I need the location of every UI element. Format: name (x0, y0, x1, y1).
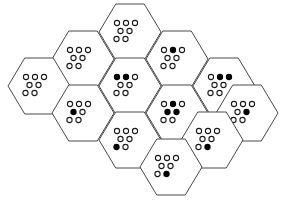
open-dot[interactable] (235, 109, 240, 114)
open-dot[interactable] (76, 117, 81, 122)
open-dot[interactable] (76, 101, 81, 106)
open-dot[interactable] (67, 101, 72, 106)
open-dot[interactable] (173, 155, 178, 160)
open-dot[interactable] (123, 144, 128, 149)
open-dot[interactable] (132, 74, 137, 79)
open-dot[interactable] (170, 63, 175, 68)
open-dot[interactable] (221, 82, 226, 87)
filled-dot[interactable] (114, 144, 119, 149)
open-dot[interactable] (240, 117, 245, 122)
open-dot[interactable] (76, 63, 81, 68)
open-dot[interactable] (170, 117, 175, 122)
open-dot[interactable] (118, 28, 123, 33)
open-dot[interactable] (114, 36, 119, 41)
open-dot[interactable] (71, 55, 76, 60)
filled-dot[interactable] (123, 74, 128, 79)
open-dot[interactable] (127, 28, 132, 33)
open-dot[interactable] (179, 101, 184, 106)
open-dot[interactable] (205, 128, 210, 133)
filled-dot[interactable] (164, 171, 169, 176)
open-dot[interactable] (127, 136, 132, 141)
open-dot[interactable] (80, 55, 85, 60)
open-dot[interactable] (196, 144, 201, 149)
open-dot[interactable] (161, 117, 166, 122)
hexagon-diagram-canvas (0, 0, 289, 200)
open-dot[interactable] (67, 63, 72, 68)
open-dot[interactable] (32, 74, 37, 79)
filled-dot[interactable] (170, 101, 175, 106)
open-dot[interactable] (155, 171, 160, 176)
hexagon-grid (0, 0, 289, 200)
open-dot[interactable] (27, 82, 32, 87)
open-dot[interactable] (76, 47, 81, 52)
open-dot[interactable] (118, 136, 123, 141)
open-dot[interactable] (231, 101, 236, 106)
open-dot[interactable] (67, 117, 72, 122)
open-dot[interactable] (114, 90, 119, 95)
open-dot[interactable] (85, 101, 90, 106)
open-dot[interactable] (208, 74, 213, 79)
open-dot[interactable] (114, 128, 119, 133)
open-dot[interactable] (164, 155, 169, 160)
open-dot[interactable] (123, 90, 128, 95)
open-dot[interactable] (208, 90, 213, 95)
filled-dot[interactable] (226, 74, 231, 79)
open-dot[interactable] (196, 128, 201, 133)
filled-dot[interactable] (165, 109, 170, 114)
open-dot[interactable] (127, 82, 132, 87)
open-dot[interactable] (161, 101, 166, 106)
open-dot[interactable] (23, 74, 28, 79)
open-dot[interactable] (174, 55, 179, 60)
open-dot[interactable] (132, 128, 137, 133)
open-dot[interactable] (155, 155, 160, 160)
open-dot[interactable] (249, 101, 254, 106)
open-dot[interactable] (114, 20, 119, 25)
open-dot[interactable] (41, 74, 46, 79)
open-dot[interactable] (159, 163, 164, 168)
open-dot[interactable] (212, 82, 217, 87)
open-dot[interactable] (32, 90, 37, 95)
filled-dot[interactable] (71, 109, 76, 114)
open-dot[interactable] (240, 101, 245, 106)
open-dot[interactable] (118, 82, 123, 87)
open-dot[interactable] (36, 82, 41, 87)
open-dot[interactable] (80, 109, 85, 114)
open-dot[interactable] (217, 90, 222, 95)
open-dot[interactable] (179, 47, 184, 52)
open-dot[interactable] (165, 55, 170, 60)
open-dot[interactable] (214, 128, 219, 133)
open-dot[interactable] (23, 90, 28, 95)
open-dot[interactable] (123, 36, 128, 41)
filled-dot[interactable] (205, 144, 210, 149)
open-dot[interactable] (85, 47, 90, 52)
open-dot[interactable] (67, 47, 72, 52)
filled-dot[interactable] (244, 109, 249, 114)
open-dot[interactable] (161, 47, 166, 52)
open-dot[interactable] (209, 136, 214, 141)
filled-dot[interactable] (170, 47, 175, 52)
open-dot[interactable] (123, 20, 128, 25)
open-dot[interactable] (123, 128, 128, 133)
filled-dot[interactable] (114, 74, 119, 79)
open-dot[interactable] (132, 20, 137, 25)
filled-dot[interactable] (217, 74, 222, 79)
filled-dot[interactable] (174, 109, 179, 114)
open-dot[interactable] (161, 63, 166, 68)
open-dot[interactable] (168, 163, 173, 168)
open-dot[interactable] (200, 136, 205, 141)
